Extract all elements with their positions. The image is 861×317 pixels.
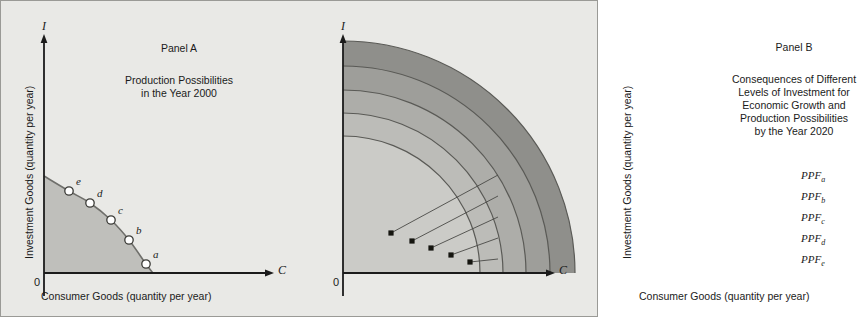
ppf-label-a: PPFa: [801, 169, 825, 184]
panel-b-y-axis-marker: I: [341, 19, 345, 34]
ppf-point-b: [125, 236, 133, 244]
ppf-point-label-d: d: [97, 187, 103, 199]
ppf-growth-bands: [343, 41, 575, 273]
ppf-label-b: PPFb: [801, 190, 825, 205]
panel-b-origin-label: 0: [333, 276, 339, 288]
ppf-point-c: [428, 245, 433, 250]
ppf-label-e: PPFe: [801, 253, 825, 268]
panel-b-title-block: Panel B Consequences of Different Levels…: [704, 28, 861, 139]
panel-b-x-axis-label: Consumer Goods (quantity per year): [639, 290, 809, 302]
ppf-point-e: [65, 187, 73, 195]
panel-b-graphic: [300, 1, 599, 317]
ppf-point-label-a: a: [153, 248, 159, 260]
panel-a-origin-label: 0: [34, 276, 40, 288]
ppf-point-c: [107, 216, 115, 224]
panel-a-y-axis-label: Investment Goods (quantity per year): [23, 86, 35, 259]
y-axis-arrowhead: [340, 34, 347, 43]
ppf-point-b: [409, 238, 414, 243]
panel-a-x-axis-label: Consumer Goods (quantity per year): [41, 290, 211, 302]
panel-b-x-axis-marker: C: [559, 263, 567, 278]
ppf-point-d: [448, 252, 453, 257]
panel-a-heading: Panel A: [109, 42, 249, 55]
panel-a-title-block: Panel A Production Possibilities in the …: [109, 29, 249, 100]
panel-a-y-axis-marker: I: [42, 19, 46, 34]
ppf-label-d: PPFd: [801, 232, 825, 247]
ppf-point-label-e: e: [76, 175, 81, 187]
panel-b-heading: Panel B: [704, 41, 861, 54]
panel-a-x-axis-marker: C: [278, 263, 286, 278]
panel-a: Panel A Production Possibilities in the …: [1, 1, 300, 317]
ppf-point-a: [142, 260, 150, 268]
y-axis-arrowhead: [41, 34, 48, 43]
x-axis-arrowhead: [265, 270, 274, 277]
ppf-point-label-c: c: [118, 204, 123, 216]
panel-b-y-axis-label: Investment Goods (quantity per year): [621, 86, 633, 259]
ppf-label-c: PPFc: [801, 211, 825, 226]
panel-b: Panel B Consequences of Different Levels…: [300, 1, 599, 317]
ppf-point-a: [388, 230, 393, 235]
ppf-point-d: [86, 199, 94, 207]
ppf-point-e: [467, 259, 472, 264]
panel-b-subtitle: Consequences of Different Levels of Inve…: [732, 73, 856, 138]
panel-a-subtitle: Production Possibilities in the Year 200…: [125, 74, 233, 99]
ppf-point-label-b: b: [136, 224, 142, 236]
